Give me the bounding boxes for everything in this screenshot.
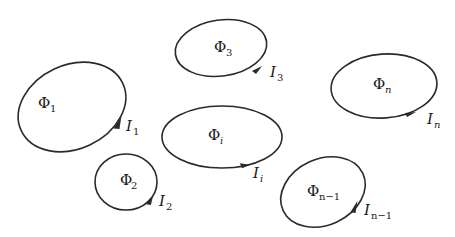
loop-n-1-current-label: I [363,201,371,219]
loop-3-current-label: I [269,63,277,81]
loop-n-current-sub: n [434,119,440,130]
loop-2: Φ 2 I 2 [95,154,172,212]
loop-2-current-sub: 2 [166,201,172,212]
loop-n-1: Φ n−1 I n−1 [269,143,392,237]
loop-1-flux-sub: 1 [50,103,56,114]
loop-3-flux-label: Φ [214,38,226,56]
loop-n-1-flux-label: Φ [307,182,319,200]
loop-3-arrow-icon [252,66,262,74]
diagram-canvas: Φ 1 I 1 Φ 2 I 2 Φ 3 I 3 Φ i I i Φ n I n [0,0,455,237]
loop-3: Φ 3 I 3 [172,14,284,83]
loop-i: Φ i I i [162,106,282,184]
loop-1: Φ 1 I 1 [3,45,140,168]
loop-2-flux-sub: 2 [131,180,137,191]
loop-i-flux-sub: i [220,135,223,146]
loop-n-flux-sub: n [385,84,391,95]
loop-n-1-current-sub: n−1 [371,210,392,221]
loop-n-flux-label: Φ [373,75,385,93]
loop-3-current-sub: 3 [277,72,283,83]
loop-3-flux-sub: 3 [226,47,232,58]
loop-2-current-label: I [158,192,166,210]
loop-i-current-sub: i [260,173,263,184]
loop-1-ellipse [3,45,140,168]
loop-i-flux-label: Φ [208,126,220,144]
loop-1-current-sub: 1 [133,126,139,137]
loop-n-current-label: I [426,110,434,128]
loop-n-1-flux-sub: n−1 [319,191,340,202]
loop-n: Φ n I n [329,50,441,130]
loop-i-current-label: I [252,164,260,182]
loop-n-arrow-icon [405,112,416,117]
loop-1-current-label: I [125,117,133,135]
loop-1-flux-label: Φ [38,94,50,112]
